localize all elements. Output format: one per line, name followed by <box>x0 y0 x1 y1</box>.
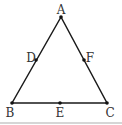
point-b <box>10 101 14 105</box>
point-c <box>105 101 109 105</box>
point-e <box>58 101 62 105</box>
triangle-diagram: A B E C D F <box>0 0 122 125</box>
label-f: F <box>86 51 94 65</box>
label-a: A <box>56 3 66 17</box>
label-e: E <box>56 106 65 120</box>
label-b: B <box>6 106 15 120</box>
label-c: C <box>105 106 114 120</box>
label-d: D <box>26 51 36 65</box>
